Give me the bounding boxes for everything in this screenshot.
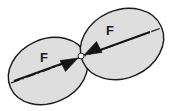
force-diagram-figure: F F [0, 0, 172, 111]
left-force-label: F [40, 50, 48, 65]
force-diagram-canvas: F F [0, 0, 172, 111]
right-force-label: F [106, 23, 114, 38]
contact-point-marker [78, 53, 84, 59]
